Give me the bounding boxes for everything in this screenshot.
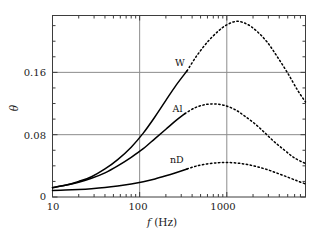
series-line-dashed-W xyxy=(187,21,305,102)
xtick-label-10: 10 xyxy=(47,201,60,212)
x-axis-title-unit: (Hz) xyxy=(154,216,177,228)
series-label-w: W xyxy=(175,57,185,68)
series-line-dashed-nD xyxy=(187,162,305,183)
y-axis-title: θ xyxy=(8,104,20,111)
xtick-label-100: 100 xyxy=(128,201,147,212)
series-line-dashed-Al xyxy=(185,104,306,164)
chart-figure: 0 0.08 0.16 10 100 1000 θ f (Hz) W Al nD xyxy=(0,0,323,237)
chart-canvas: 0 0.08 0.16 10 100 1000 θ f (Hz) W Al nD xyxy=(0,0,323,237)
series-label-al: Al xyxy=(172,103,183,114)
ytick-label-008: 0.08 xyxy=(24,130,46,141)
x-axis-title: f (Hz) xyxy=(146,216,177,228)
series-line-solid-nD xyxy=(53,169,188,190)
ytick-label-016: 0.16 xyxy=(24,67,46,78)
series-label-nd: nD xyxy=(170,154,184,165)
xtick-label-1000: 1000 xyxy=(210,201,235,212)
ytick-label-0: 0 xyxy=(40,191,46,202)
